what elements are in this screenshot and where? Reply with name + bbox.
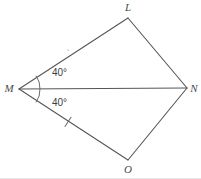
vertex-label-L: L: [124, 1, 131, 13]
segment-LN: [128, 18, 187, 88]
geometry-figure: 40° 40° L M N O: [0, 0, 201, 179]
vertex-label-M: M: [3, 82, 14, 94]
segment-MO: [19, 89, 128, 160]
angle-LMN-label: 40°: [52, 67, 67, 78]
vertex-label-N: N: [189, 82, 198, 94]
segments-group: [19, 18, 187, 160]
segment-ON: [128, 88, 187, 160]
segment-MN-diagonal: [19, 88, 187, 89]
segment-ML: [19, 18, 128, 89]
vertex-label-O: O: [124, 163, 132, 175]
geometry-canvas: 40° 40° L M N O: [0, 0, 201, 179]
angle-OMN-label: 40°: [52, 97, 67, 108]
